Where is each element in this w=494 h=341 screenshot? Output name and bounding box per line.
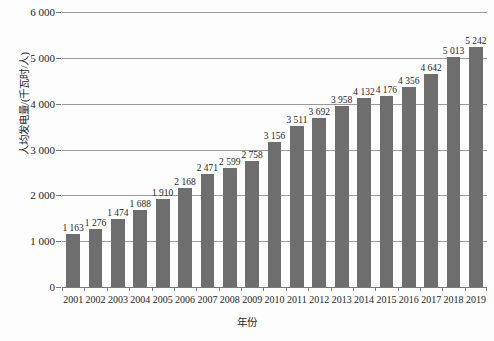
bar[interactable]: 3 511 <box>290 126 304 287</box>
x-tick-slot <box>308 287 330 292</box>
bar[interactable]: 4 132 <box>357 98 371 287</box>
x-axis-label-2005: 2005 <box>152 294 174 305</box>
bar[interactable]: 2 758 <box>245 161 259 287</box>
x-tick-slot <box>263 287 285 292</box>
x-tick-mark-2004 <box>129 287 130 291</box>
bar[interactable]: 5 242 <box>469 47 483 287</box>
bar-slot: 3 156 <box>263 12 285 287</box>
bar-value-label: 1 474 <box>107 208 128 218</box>
bar[interactable]: 5 013 <box>447 57 461 287</box>
x-tick-mark-2019 <box>465 287 466 291</box>
x-tick-mark-2005 <box>152 287 153 291</box>
x-axis-label-2007: 2007 <box>196 294 218 305</box>
x-tick-slot <box>465 287 487 292</box>
bar[interactable]: 1 276 <box>89 229 103 287</box>
x-axis-label-2001: 2001 <box>62 294 84 305</box>
x-tick-slot <box>353 287 375 292</box>
bars-group: 1 1631 2761 4741 6881 9102 1682 4712 599… <box>62 12 487 287</box>
x-tick-slot <box>241 287 263 292</box>
bar-slot: 3 692 <box>308 12 330 287</box>
x-tick-slot <box>174 287 196 292</box>
y-tick-label-6000: 6 000 <box>30 6 55 18</box>
x-tick-mark-end <box>486 287 487 291</box>
x-tick-slot <box>152 287 174 292</box>
y-tick-mark-2000 <box>56 195 61 196</box>
bar-value-label: 1 688 <box>130 199 151 209</box>
bar-slot: 4 356 <box>398 12 420 287</box>
bar-value-label: 2 758 <box>241 150 262 160</box>
bar-value-label: 3 692 <box>309 107 330 117</box>
x-tick-slot <box>442 287 464 292</box>
bar[interactable]: 1 910 <box>156 199 170 287</box>
x-tick-slot <box>219 287 241 292</box>
x-tick-mark-2018 <box>442 287 443 291</box>
bar[interactable]: 1 474 <box>111 219 125 287</box>
y-tick-mark-1000 <box>56 241 61 242</box>
x-tick-mark-2011 <box>286 287 287 291</box>
y-tick-label-3000: 3 000 <box>30 144 55 156</box>
bar-slot: 4 642 <box>420 12 442 287</box>
x-tick-mark-2003 <box>107 287 108 291</box>
bar-slot: 1 688 <box>129 12 151 287</box>
bar-slot: 3 511 <box>286 12 308 287</box>
bar-value-label: 2 599 <box>219 157 240 167</box>
x-tick-mark-2002 <box>84 287 85 291</box>
x-axis-tick-marks <box>62 287 487 292</box>
bar-slot: 2 168 <box>174 12 196 287</box>
x-tick-mark-2007 <box>196 287 197 291</box>
bar-value-label: 1 163 <box>62 223 83 233</box>
bar-slot: 2 758 <box>241 12 263 287</box>
x-axis-label-2008: 2008 <box>219 294 241 305</box>
y-tick-mark-5000 <box>56 58 61 59</box>
y-tick-label-4000: 4 000 <box>30 98 55 110</box>
bar-slot: 1 474 <box>107 12 129 287</box>
bar[interactable]: 4 642 <box>424 74 438 287</box>
bar-value-label: 3 156 <box>264 131 285 141</box>
bar-slot: 5 013 <box>442 12 464 287</box>
bar[interactable]: 2 599 <box>223 168 237 287</box>
bar-value-label: 1 910 <box>152 188 173 198</box>
x-tick-slot <box>196 287 218 292</box>
bar[interactable]: 3 156 <box>268 142 282 287</box>
bar-slot: 5 242 <box>465 12 487 287</box>
x-axis-label-2011: 2011 <box>286 294 308 305</box>
y-tick-label-2000: 2 000 <box>30 189 55 201</box>
bar-slot: 1 163 <box>62 12 84 287</box>
x-tick-slot <box>375 287 397 292</box>
bar-slot: 2 471 <box>196 12 218 287</box>
bar-value-label: 3 958 <box>331 95 352 105</box>
x-axis-label-2003: 2003 <box>107 294 129 305</box>
x-axis-labels: 2001200220032004200520062007200820092010… <box>62 294 487 305</box>
x-tick-mark-2016 <box>398 287 399 291</box>
bar[interactable]: 2 168 <box>178 188 192 287</box>
bar[interactable]: 3 958 <box>335 106 349 287</box>
x-tick-slot <box>398 287 420 292</box>
y-tick-mark-3000 <box>56 150 61 151</box>
x-tick-slot <box>62 287 84 292</box>
bar[interactable]: 3 692 <box>312 118 326 287</box>
x-tick-mark-2006 <box>174 287 175 291</box>
x-axis-label-2016: 2016 <box>398 294 420 305</box>
y-tick-mark-6000 <box>56 12 61 13</box>
x-tick-mark-2014 <box>353 287 354 291</box>
bar-slot: 3 958 <box>331 12 353 287</box>
bar[interactable]: 4 176 <box>380 96 394 287</box>
bar[interactable]: 2 471 <box>201 174 215 287</box>
bar-value-label: 4 176 <box>376 85 397 95</box>
bar-value-label: 5 242 <box>465 36 486 46</box>
x-tick-slot <box>129 287 151 292</box>
bar[interactable]: 4 356 <box>402 87 416 287</box>
bar[interactable]: 1 688 <box>133 210 147 287</box>
y-tick-label-5000: 5 000 <box>30 52 55 64</box>
bar-value-label: 2 168 <box>174 177 195 187</box>
x-axis-label-2009: 2009 <box>241 294 263 305</box>
bar[interactable]: 1 163 <box>66 234 80 287</box>
x-tick-slot <box>331 287 353 292</box>
y-axis-title: 人均发电量/(千瓦时/人) <box>16 19 31 189</box>
x-axis-label-2019: 2019 <box>465 294 487 305</box>
x-tick-slot <box>286 287 308 292</box>
x-axis-label-2018: 2018 <box>442 294 464 305</box>
bar-value-label: 1 276 <box>85 218 106 228</box>
x-tick-slot <box>84 287 106 292</box>
x-axis-title: 年份 <box>0 314 494 329</box>
